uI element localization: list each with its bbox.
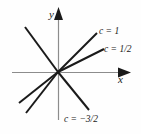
line-c-negative-three-halves (58, 72, 89, 110)
annotation-c-equals-1: c = 1 (99, 27, 119, 37)
y-axis-label: y (49, 9, 54, 20)
x-axis-label: x (118, 74, 123, 85)
line-c-half (58, 49, 104, 72)
annotation-c-equals-one-half: c = 1/2 (104, 45, 132, 55)
line-c-1 (58, 33, 97, 72)
y-axis-arrowhead (54, 7, 63, 20)
line-upper-left-steep (25, 27, 58, 72)
line-family-figure: y x c = 1 c = 1/2 c = −3/2 (0, 0, 141, 134)
annotation-c-equals-negative-three-halves: c = −3/2 (64, 115, 98, 125)
